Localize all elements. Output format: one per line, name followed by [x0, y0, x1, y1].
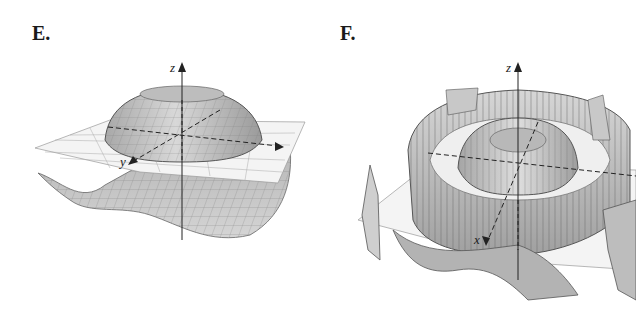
panel-f: F.	[318, 0, 636, 313]
surface-plot-f: z x	[318, 0, 636, 313]
panel-e: E.	[0, 0, 318, 313]
right-spikes	[603, 200, 636, 300]
z-axis-label: z	[169, 60, 175, 75]
surface-plot-e: z y	[0, 0, 318, 313]
z-axis-label-f: z	[505, 60, 511, 75]
x-axis-label-f: x	[473, 232, 480, 247]
left-spike	[362, 165, 380, 260]
y-axis-label-e: y	[118, 154, 126, 169]
